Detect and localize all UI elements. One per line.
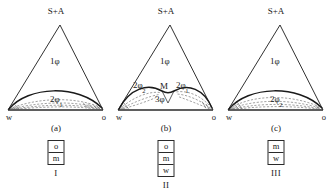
panel-a: S+A w o 1φ 2φ1 (a) o m I — [0, 0, 112, 193]
legend-c: m w III — [268, 140, 285, 178]
panel-b: S+A w o 1φ 2φ2 M 2φ1 3φ (b) o m w II — [110, 0, 222, 193]
legend-a: o m I — [48, 140, 65, 178]
legend-cell: m — [269, 141, 284, 153]
region-label-one-phase-b: 1φ — [160, 57, 170, 66]
region-label-three-phase-b: 3φ — [155, 95, 165, 104]
region-label-one-phase-a: 1φ — [50, 57, 60, 66]
vertex-label-w-a: w — [6, 113, 12, 122]
legend-cell: w — [269, 153, 284, 164]
caption-c: (c) — [271, 124, 281, 133]
legend-cell: m — [49, 153, 64, 164]
region-label-two-phase-a: 2φ1 — [50, 95, 63, 106]
legend-stack-b: o m w — [158, 140, 175, 177]
apex-label-b: S+A — [158, 7, 175, 16]
legend-b: o m w II — [158, 140, 175, 190]
tie-lines-left-b — [120, 92, 160, 109]
legend-cell: m — [159, 153, 174, 165]
caption-a: (a) — [51, 124, 61, 133]
vertex-label-o-c: o — [322, 113, 326, 122]
caption-b: (b) — [161, 124, 172, 133]
legend-cell: o — [49, 141, 64, 153]
vertex-label-w-b: w — [116, 113, 122, 122]
vertex-label-o-a: o — [102, 113, 106, 122]
legend-stack-c: m w — [268, 140, 285, 165]
legend-cell: o — [159, 141, 174, 153]
region-label-two-phase-c: 2φ2 — [270, 95, 283, 106]
legend-cell: w — [159, 165, 174, 176]
region-label-two-phase-1-b: 2φ1 — [176, 81, 189, 92]
panel-c: S+A w o 1φ 2φ2 (c) m w III — [220, 0, 332, 193]
region-label-one-phase-c: 1φ — [270, 57, 280, 66]
apex-label-c: S+A — [268, 7, 285, 16]
vertex-label-w-c: w — [226, 113, 232, 122]
apex-label-a: S+A — [48, 7, 65, 16]
legend-stack-a: o m — [48, 140, 65, 165]
legend-numeral-a: I — [54, 168, 57, 178]
tie-lines-right-b — [176, 92, 212, 109]
vertex-label-o-b: o — [212, 113, 216, 122]
legend-numeral-b: II — [163, 180, 170, 190]
region-label-two-phase-2-b: 2φ2 — [133, 81, 146, 92]
phase-diagram-figure: S+A w o 1φ 2φ1 (a) o m I — [0, 0, 336, 193]
legend-numeral-c: III — [271, 168, 281, 178]
region-label-middle-b: M — [160, 82, 168, 91]
